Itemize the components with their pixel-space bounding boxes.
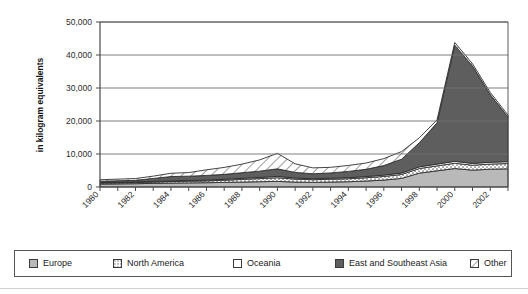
y-tick-label: 20,000 xyxy=(66,116,92,126)
x-tick-label: 1980 xyxy=(80,189,101,210)
chart-figure: 010,00020,00030,00040,00050,000 19801982… xyxy=(0,0,528,294)
plot-area xyxy=(100,22,508,187)
y-tick-label: 10,000 xyxy=(66,149,92,159)
y-tick-label: 40,000 xyxy=(66,50,92,60)
x-tick-label: 1992 xyxy=(293,189,314,210)
legend-item-east-and-southeast-asia[interactable]: East and Southeast Asia xyxy=(335,259,447,268)
y-axis-title: in kilogram equivalents xyxy=(35,57,45,152)
x-tick-label: 1990 xyxy=(257,189,278,210)
legend-item-label: North America xyxy=(127,259,184,268)
x-tick-label: 2000 xyxy=(435,189,456,210)
stacked-area-chart: 010,00020,00030,00040,00050,000 19801982… xyxy=(0,0,528,250)
y-tick-label: 50,000 xyxy=(66,17,92,27)
legend-swatch-icon xyxy=(335,259,344,268)
legend-item-label: East and Southeast Asia xyxy=(349,259,447,268)
legend-item-north-america[interactable]: North America xyxy=(113,259,184,268)
legend-swatch-icon xyxy=(470,259,479,268)
x-tick-label: 1988 xyxy=(222,189,243,210)
y-axis-tick-labels: 010,00020,00030,00040,00050,000 xyxy=(66,17,92,192)
x-tick-label: 1994 xyxy=(328,189,349,210)
y-tick-label: 30,000 xyxy=(66,83,92,93)
chart-legend: EuropeNorth AmericaOceaniaEast and South… xyxy=(14,250,512,277)
legend-item-label: Other xyxy=(484,259,507,268)
footer-divider xyxy=(0,288,528,289)
legend-swatch-icon xyxy=(233,259,242,268)
legend-swatch-icon xyxy=(113,259,122,268)
x-tick-label: 2002 xyxy=(470,189,491,210)
legend-item-oceania[interactable]: Oceania xyxy=(233,259,281,268)
x-tick-label: 1982 xyxy=(115,189,136,210)
x-tick-label: 1996 xyxy=(364,189,385,210)
x-axis-tick-labels: 1980198219841986198819901992199419961998… xyxy=(80,189,491,210)
legend-item-europe[interactable]: Europe xyxy=(29,259,72,268)
legend-item-label: Europe xyxy=(43,259,72,268)
x-tick-label: 1984 xyxy=(151,189,172,210)
legend-item-other[interactable]: Other xyxy=(470,259,507,268)
x-tick-label: 1986 xyxy=(186,189,207,210)
legend-item-label: Oceania xyxy=(247,259,281,268)
legend-swatch-icon xyxy=(29,259,38,268)
x-tick-label: 1998 xyxy=(399,189,420,210)
